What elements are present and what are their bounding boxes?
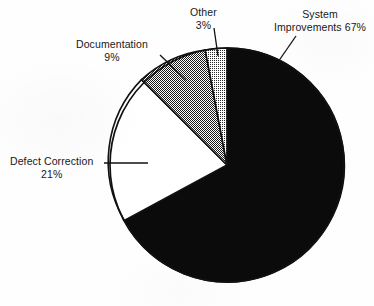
pie-label-documentation: Documentation 9% [76, 38, 148, 63]
pie-label-other: Other 3% [190, 6, 217, 31]
pie-label-documentation-line1: Documentation [76, 38, 148, 51]
leader-line-system-improvements [278, 36, 296, 62]
pie-label-other-line1: Other [190, 6, 217, 19]
pie-chart-canvas [0, 0, 374, 306]
pie-label-documentation-line2: 9% [76, 51, 148, 64]
pie-label-defect-correction-line1: Defect Correction [10, 155, 93, 168]
pie-label-other-line2: 3% [190, 19, 217, 32]
pie-chart-figure: System Improvements 67% Other 3% Documen… [0, 0, 374, 306]
pie-label-defect-correction: Defect Correction 21% [10, 155, 93, 180]
pie-label-defect-correction-line2: 21% [10, 168, 93, 181]
pie-label-system-improvements: System Improvements 67% [274, 8, 366, 33]
pie-label-system-improvements-line1: System [274, 8, 366, 21]
pie-label-system-improvements-line2: Improvements 67% [274, 21, 366, 34]
